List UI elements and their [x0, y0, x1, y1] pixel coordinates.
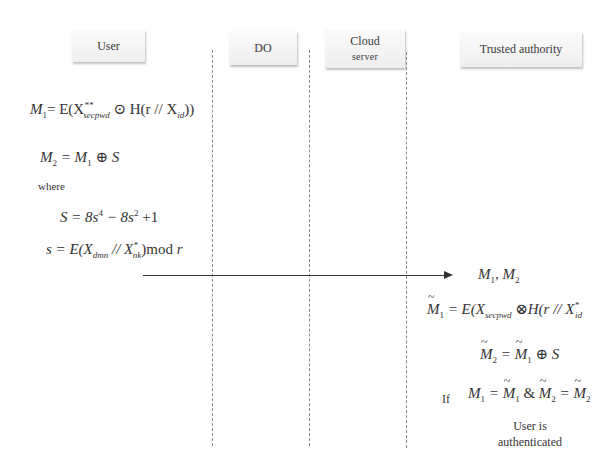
- lifeline-cloud: [309, 50, 310, 446]
- actor-user-label: User: [97, 39, 120, 54]
- actor-user: User: [72, 30, 145, 62]
- actor-do-label: DO: [254, 41, 271, 56]
- message-arrow-user-to-ta: [143, 275, 445, 276]
- lifeline-ta: [406, 52, 407, 448]
- equation-s-definition: s = E(Xdmn // X*nk)mod r: [46, 240, 183, 260]
- message-label-m1-m2: M1, M2: [478, 266, 520, 285]
- equation-s-polynomial: S = 8s4 − 8s2 +1: [60, 208, 158, 226]
- lifeline-do: [212, 50, 213, 446]
- actor-do: DO: [229, 31, 297, 65]
- equation-m2: M2 = M1 ⊕ S: [40, 148, 119, 168]
- equation-m1: M1= E(X**secpwd ⊙ H(r // Xid)): [30, 100, 194, 120]
- actor-cloud-server: Cloud server: [325, 29, 405, 68]
- result-line-2: authenticated: [480, 434, 580, 450]
- equation-m1-tilde: M1 = E(Xsecpwd ⊗H(r // X*id: [427, 300, 582, 320]
- result-text: User is authenticated: [480, 418, 580, 450]
- equation-authentication-condition: M1 = M1 & M2 = M2: [468, 385, 590, 404]
- actor-cloud-label: Cloud: [350, 34, 379, 49]
- if-label: If: [442, 392, 450, 407]
- where-label: where: [38, 180, 65, 192]
- actor-trusted-authority: Trusted authority: [460, 32, 582, 67]
- actor-ta-label: Trusted authority: [480, 42, 563, 57]
- result-line-1: User is: [480, 418, 580, 434]
- equation-m2-tilde: M2 = M1 ⊕ S: [480, 345, 559, 365]
- actor-cloud-sublabel: server: [352, 49, 378, 64]
